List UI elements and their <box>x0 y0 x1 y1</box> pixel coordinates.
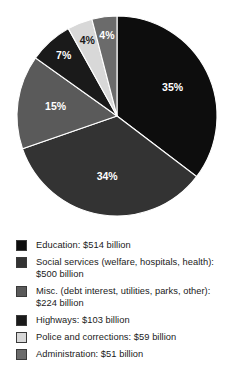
legend-swatch-icon <box>16 286 27 297</box>
legend: Education: $514 billion Social services … <box>8 231 227 386</box>
pie-slice-percent-label: 7% <box>56 49 72 61</box>
pie-chart-area: 35%34%15%7%4%4% <box>0 0 235 228</box>
pie-chart-svg: 35%34%15%7%4%4% <box>0 0 235 228</box>
pie-slice-percent-label: 35% <box>162 81 184 93</box>
pie-slice-percent-label: 34% <box>97 170 119 182</box>
legend-item-misc: Misc. (debt interest, utilities, parks, … <box>16 285 221 309</box>
legend-item-social-services: Social services (welfare, hospitals, hea… <box>16 256 221 280</box>
legend-swatch-icon <box>16 332 27 343</box>
legend-item-label: Administration: $51 billion <box>36 348 143 360</box>
pie-chart-figure: 35%34%15%7%4%4% Education: $514 billion … <box>0 0 235 392</box>
pie-slice-percent-label: 4% <box>99 29 115 41</box>
legend-item-label: Police and corrections: $59 billion <box>36 331 176 343</box>
legend-swatch-icon <box>16 257 27 268</box>
pie-slice-group <box>17 16 217 216</box>
legend-item-label: Highways: $103 billion <box>36 314 130 326</box>
legend-swatch-icon <box>16 240 27 251</box>
legend-item-label: Education: $514 billion <box>36 239 131 251</box>
legend-swatch-icon <box>16 349 27 360</box>
legend-item-education: Education: $514 billion <box>16 239 221 251</box>
legend-item-police-and-corrections: Police and corrections: $59 billion <box>16 331 221 343</box>
legend-item-administration: Administration: $51 billion <box>16 348 221 360</box>
legend-swatch-icon <box>16 315 27 326</box>
legend-item-label: Misc. (debt interest, utilities, parks, … <box>36 285 221 309</box>
pie-slice-percent-label: 15% <box>45 100 67 112</box>
legend-item-highways: Highways: $103 billion <box>16 314 221 326</box>
legend-list: Education: $514 billion Social services … <box>16 239 221 360</box>
pie-slice-percent-label: 4% <box>80 34 96 46</box>
legend-item-label: Social services (welfare, hospitals, hea… <box>36 256 221 280</box>
